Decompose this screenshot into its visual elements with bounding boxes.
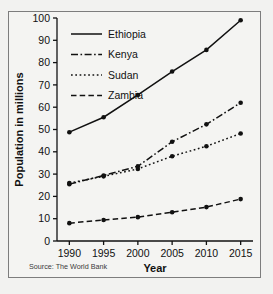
data-point-zambia-1990 [67, 221, 72, 226]
legend-label-kenya: Kenya [108, 48, 138, 60]
y-axis-tick-label: 50 [38, 123, 50, 135]
data-point-kenya-2010 [204, 122, 209, 127]
data-point-ethiopia-2005 [170, 69, 175, 74]
data-point-ethiopia-1995 [101, 115, 106, 120]
y-axis-tick-label: 80 [38, 56, 50, 68]
data-point-zambia-1995 [101, 218, 106, 223]
data-point-zambia-2010 [204, 205, 209, 210]
legend-label-ethiopia: Ethiopia [108, 28, 146, 40]
y-axis-tick-label: 70 [38, 79, 50, 91]
data-point-sudan-2010 [204, 144, 209, 149]
y-axis-tick-label: 30 [38, 168, 50, 180]
data-point-kenya-2015 [238, 100, 243, 105]
y-axis-tick-label: 0 [44, 235, 50, 247]
data-point-sudan-2000 [136, 167, 141, 172]
x-axis-tick-label: 2015 [229, 247, 253, 259]
series-line-ethiopia [69, 20, 240, 132]
chart-figure-frame: 0102030405060708090100199019952000200520… [8, 11, 261, 278]
x-axis-tick-label: 1990 [58, 247, 82, 259]
data-point-sudan-2015 [238, 131, 243, 136]
x-axis-tick-label: 2010 [195, 247, 219, 259]
data-point-sudan-2005 [170, 154, 175, 159]
x-axis-tick-label: 2005 [160, 247, 184, 259]
y-axis-title: Population in millions [13, 72, 25, 186]
cut-off-top-caption [14, 0, 259, 7]
legend-label-zambia: Zambia [108, 89, 143, 101]
x-axis-tick-label: 2000 [126, 247, 150, 259]
data-point-zambia-2000 [136, 215, 141, 220]
plot-stage: 0102030405060708090100199019952000200520… [9, 12, 262, 279]
legend-label-sudan: Sudan [108, 69, 139, 81]
source-note: Source: The World Bank [29, 262, 107, 271]
line-chart: 0102030405060708090100199019952000200520… [9, 12, 262, 279]
y-axis-tick-label: 40 [38, 145, 50, 157]
y-axis-tick-label: 60 [38, 101, 50, 113]
x-axis-tick-label: 1995 [92, 247, 116, 259]
data-point-sudan-1995 [101, 174, 106, 179]
x-axis-title: Year [143, 262, 167, 274]
data-point-ethiopia-2015 [238, 18, 243, 23]
y-axis-tick-label: 10 [38, 212, 50, 224]
series-line-sudan [69, 134, 240, 184]
data-point-zambia-2005 [170, 210, 175, 215]
y-axis-tick-label: 100 [32, 12, 50, 24]
data-point-ethiopia-1990 [67, 130, 72, 135]
data-point-sudan-1990 [67, 181, 72, 186]
data-point-zambia-2015 [238, 197, 243, 202]
data-point-kenya-2005 [170, 139, 175, 144]
data-point-ethiopia-2010 [204, 48, 209, 53]
series-line-zambia [69, 199, 240, 223]
y-axis-tick-label: 20 [38, 190, 50, 202]
y-axis-tick-label: 90 [38, 34, 50, 46]
